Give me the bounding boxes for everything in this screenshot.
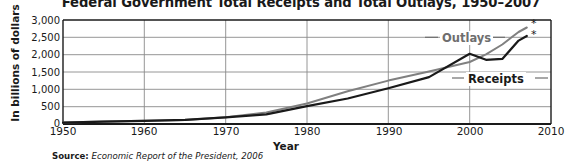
- chart-figure: Federal Government Total Receipts and To…: [0, 0, 573, 168]
- series-annotation-receipts: Receipts: [466, 72, 526, 86]
- source-text: Economic Report of the President, 2006: [92, 151, 264, 161]
- source-label: Source:: [52, 151, 89, 161]
- source-note: Source: Economic Report of the President…: [52, 151, 263, 161]
- estimate-asterisk-receipts: *: [531, 28, 537, 41]
- series-annotation-outlays: Outlays: [440, 31, 493, 45]
